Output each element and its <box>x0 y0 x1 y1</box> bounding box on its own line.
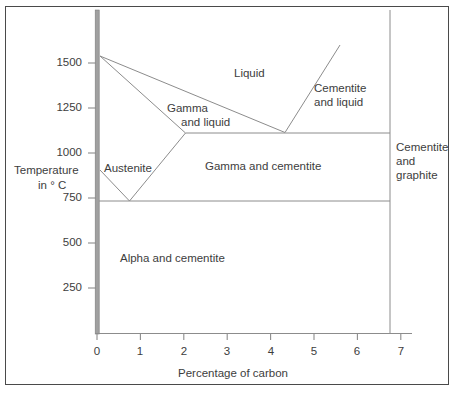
x-tick-label: 4 <box>261 345 281 357</box>
x-tick-label: 7 <box>391 345 411 357</box>
y-tick-marks <box>88 63 96 288</box>
region-label-liquid: Liquid <box>234 66 265 80</box>
region-label-gamma-and-liquid-line1: Gamma <box>167 101 208 115</box>
region-label-alpha-and-cementite: Alpha and cementite <box>120 251 225 265</box>
y-tick-label: 250 <box>24 281 82 293</box>
x-tick-label: 2 <box>174 345 194 357</box>
y-tick-label: 1000 <box>24 146 82 158</box>
solidus-curve <box>100 56 186 133</box>
y-axis-title-line1: Temperature <box>14 164 79 176</box>
y-tick-label: 1500 <box>24 56 82 68</box>
region-label-gamma-and-cementite: Gamma and cementite <box>205 159 321 173</box>
region-label-cementite-and-liquid-line1: Cementite <box>314 81 366 95</box>
region-label-austenite: Austenite <box>104 161 152 175</box>
x-tick-label: 5 <box>304 345 324 357</box>
region-label-cementite-and-graphite-line2: and <box>396 154 415 168</box>
phase-diagram-figure: 1500 1250 1000 750 500 250 Temperature i… <box>0 0 456 393</box>
region-label-gamma-and-liquid-line2: and liquid <box>181 115 230 129</box>
x-axis-title: Percentage of carbon <box>178 367 288 379</box>
y-axis-bar <box>95 10 99 334</box>
y-tick-label: 1250 <box>24 101 82 113</box>
region-label-cementite-and-graphite-line3: graphite <box>396 168 438 182</box>
x-tick-label: 1 <box>130 345 150 357</box>
x-tick-label: 3 <box>217 345 237 357</box>
y-axis-title-line2: in ° C <box>38 179 66 191</box>
x-tick-label: 6 <box>347 345 367 357</box>
y-tick-label: 750 <box>24 191 82 203</box>
y-tick-label: 500 <box>24 236 82 248</box>
x-tick-marks <box>97 334 401 341</box>
region-label-cementite-and-liquid-line2: and liquid <box>314 95 363 109</box>
region-label-cementite-and-graphite-line1: Cementite <box>396 140 448 154</box>
x-tick-label: 0 <box>87 345 107 357</box>
